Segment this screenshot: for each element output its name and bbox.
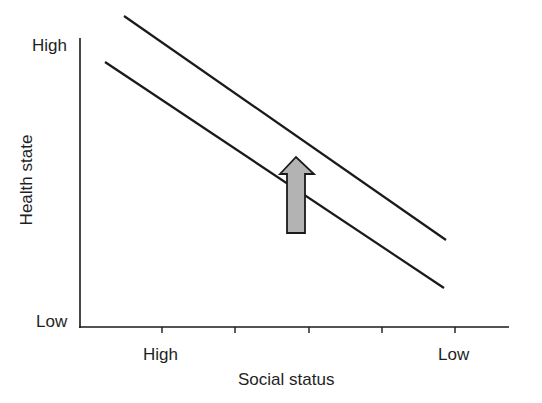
x-tick-low: Low (438, 345, 469, 365)
diagram-canvas (0, 0, 542, 403)
y-axis-title: Health state (17, 125, 37, 235)
y-tick-low: Low (36, 312, 67, 332)
x-axis-title: Social status (238, 370, 334, 390)
x-ticks (162, 327, 455, 333)
lower-line (105, 62, 444, 288)
upper-line (124, 16, 446, 240)
x-tick-high: High (143, 345, 178, 365)
up-arrow-icon (280, 157, 314, 233)
y-tick-high: High (32, 36, 67, 56)
